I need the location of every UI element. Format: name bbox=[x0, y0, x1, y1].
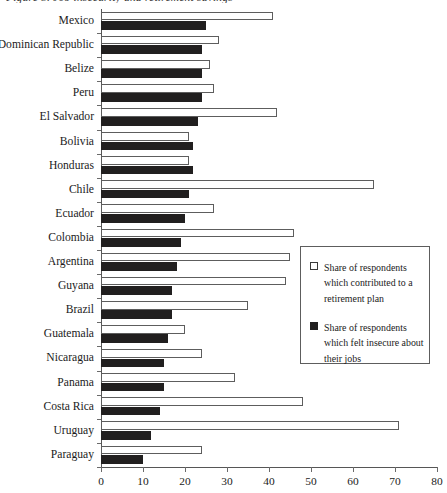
bar-row: El Salvador bbox=[101, 105, 437, 129]
bar-job-insecurity bbox=[101, 455, 143, 464]
open-square-icon bbox=[310, 262, 318, 270]
bar-row: Belize bbox=[101, 57, 437, 81]
bar-row: Mexico bbox=[101, 9, 437, 33]
bar-job-insecurity bbox=[101, 359, 164, 368]
bar-row: Costa Rica bbox=[101, 395, 437, 419]
x-axis-tick-label: 70 bbox=[375, 475, 415, 487]
bar-job-insecurity bbox=[101, 310, 172, 319]
x-axis-tick-label: 60 bbox=[333, 475, 373, 487]
category-label: Honduras bbox=[0, 154, 101, 178]
bar-job-insecurity bbox=[101, 21, 206, 30]
category-label: Belize bbox=[0, 57, 101, 81]
legend-item-retirement-plan: Share of respondents which contributed t… bbox=[310, 260, 428, 306]
x-axis-tick bbox=[101, 467, 102, 472]
bar-retirement-plan bbox=[101, 60, 210, 69]
category-label: Ecuador bbox=[0, 202, 101, 226]
category-label: Costa Rica bbox=[0, 395, 101, 419]
chart-legend: Share of respondents which contributed t… bbox=[300, 246, 430, 364]
category-label: Uruguay bbox=[0, 419, 101, 443]
bar-job-insecurity bbox=[101, 238, 181, 247]
bar-row: Honduras bbox=[101, 154, 437, 178]
bar-retirement-plan bbox=[101, 36, 219, 45]
bar-job-insecurity bbox=[101, 69, 202, 78]
bar-retirement-plan bbox=[101, 204, 214, 213]
bar-job-insecurity bbox=[101, 286, 172, 295]
legend-item-job-insecurity: Share of respondents which felt insecure… bbox=[310, 320, 428, 366]
bar-row: Chile bbox=[101, 178, 437, 202]
category-label: Dominican Republic bbox=[0, 33, 101, 57]
bar-row: Bolivia bbox=[101, 130, 437, 154]
bar-job-insecurity bbox=[101, 431, 151, 440]
category-label: Mexico bbox=[0, 9, 101, 33]
bar-retirement-plan bbox=[101, 397, 303, 406]
chart-title: Figure 5. Job insecurity and retirement … bbox=[6, 0, 233, 3]
bar-row: Uruguay bbox=[101, 419, 437, 443]
plot-area: MexicoDominican RepublicBelizePeruEl Sal… bbox=[101, 9, 437, 467]
x-axis-tick-label: 0 bbox=[81, 475, 121, 487]
bar-job-insecurity bbox=[101, 407, 160, 416]
bar-retirement-plan bbox=[101, 253, 290, 262]
bar-row: Peru bbox=[101, 81, 437, 105]
legend-item-label: Share of respondents which felt insecure… bbox=[324, 320, 428, 366]
x-axis-tick bbox=[395, 467, 396, 472]
bar-retirement-plan bbox=[101, 180, 374, 189]
category-label: Chile bbox=[0, 178, 101, 202]
bar-row: Panama bbox=[101, 371, 437, 395]
bar-retirement-plan bbox=[101, 373, 235, 382]
x-axis-tick bbox=[269, 467, 270, 472]
x-axis-tick bbox=[353, 467, 354, 472]
x-axis-tick-label: 20 bbox=[165, 475, 205, 487]
bar-retirement-plan bbox=[101, 349, 202, 358]
legend-item-label: Share of respondents which contributed t… bbox=[324, 260, 428, 306]
bar-job-insecurity bbox=[101, 166, 193, 175]
x-axis-tick bbox=[185, 467, 186, 472]
category-label: Peru bbox=[0, 81, 101, 105]
bar-retirement-plan bbox=[101, 325, 185, 334]
bar-retirement-plan bbox=[101, 132, 189, 141]
bar-job-insecurity bbox=[101, 117, 198, 126]
category-label: Nicaragua bbox=[0, 346, 101, 370]
category-label: Brazil bbox=[0, 298, 101, 322]
bar-retirement-plan bbox=[101, 277, 286, 286]
x-axis-tick-label: 80 bbox=[417, 475, 447, 487]
bar-retirement-plan bbox=[101, 446, 202, 455]
x-axis-tick bbox=[437, 467, 438, 472]
x-axis-tick bbox=[227, 467, 228, 472]
bar-job-insecurity bbox=[101, 93, 202, 102]
bar-retirement-plan bbox=[101, 301, 248, 310]
bar-retirement-plan bbox=[101, 421, 399, 430]
bar-job-insecurity bbox=[101, 45, 202, 54]
category-label: Panama bbox=[0, 371, 101, 395]
bar-row: Ecuador bbox=[101, 202, 437, 226]
x-axis-tick-label: 10 bbox=[123, 475, 163, 487]
bar-job-insecurity bbox=[101, 334, 168, 343]
category-label: Guatemala bbox=[0, 322, 101, 346]
filled-square-icon bbox=[310, 322, 318, 330]
x-axis-tick-label: 50 bbox=[291, 475, 331, 487]
bar-job-insecurity bbox=[101, 383, 164, 392]
bar-job-insecurity bbox=[101, 214, 185, 223]
bar-retirement-plan bbox=[101, 108, 277, 117]
bar-retirement-plan bbox=[101, 12, 273, 21]
x-axis-tick bbox=[311, 467, 312, 472]
category-label: Guyana bbox=[0, 274, 101, 298]
bar-retirement-plan bbox=[101, 229, 294, 238]
category-label: El Salvador bbox=[0, 105, 101, 129]
bar-job-insecurity bbox=[101, 262, 177, 271]
bar-row: Paraguay bbox=[101, 443, 437, 467]
bar-retirement-plan bbox=[101, 156, 189, 165]
category-label: Paraguay bbox=[0, 443, 101, 467]
bar-job-insecurity bbox=[101, 142, 193, 151]
bar-job-insecurity bbox=[101, 190, 189, 199]
x-axis-tick-label: 40 bbox=[249, 475, 289, 487]
x-axis-tick-label: 30 bbox=[207, 475, 247, 487]
bar-retirement-plan bbox=[101, 84, 214, 93]
x-axis-tick bbox=[143, 467, 144, 472]
category-label: Colombia bbox=[0, 226, 101, 250]
category-label: Bolivia bbox=[0, 130, 101, 154]
bar-row: Dominican Republic bbox=[101, 33, 437, 57]
category-label: Argentina bbox=[0, 250, 101, 274]
